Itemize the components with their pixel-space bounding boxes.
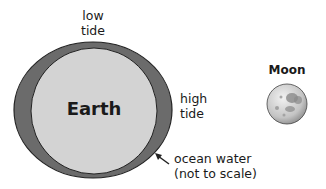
tide-diagram: [0, 0, 326, 189]
moon-label: Moon: [262, 63, 312, 78]
low-tide-line2: tide: [78, 23, 108, 38]
arrow-icon: [155, 153, 169, 164]
ocean-water-line1: ocean water: [174, 151, 257, 166]
moon-icon: [267, 84, 307, 124]
ocean-water-label: ocean water (not to scale): [174, 151, 257, 181]
low-tide-label: low tide: [78, 8, 108, 38]
high-tide-line2: tide: [180, 106, 207, 121]
high-tide-line1: high: [180, 91, 207, 106]
ocean-water-line2: (not to scale): [174, 166, 257, 181]
high-tide-label: high tide: [180, 91, 207, 121]
earth-label: Earth: [54, 98, 134, 120]
low-tide-line1: low: [78, 8, 108, 23]
